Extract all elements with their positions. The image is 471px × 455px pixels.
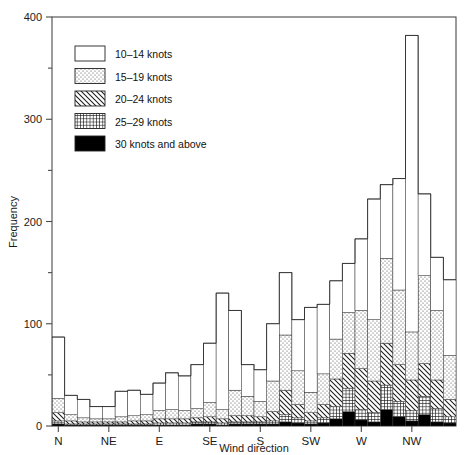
legend-swatch <box>75 114 105 129</box>
bar-segment <box>204 424 217 426</box>
bar-segment <box>178 423 191 425</box>
bar-segment <box>241 416 254 422</box>
bar-segment <box>267 412 280 421</box>
x-tick-label: NW <box>402 435 421 447</box>
bar-segment <box>90 407 103 419</box>
bar-segment <box>393 365 406 402</box>
bar-segment <box>204 417 217 422</box>
x-tick-label: N <box>54 435 62 447</box>
bar-segment <box>191 424 204 426</box>
bar-segment <box>317 405 330 418</box>
legend-label: 30 knots and above <box>115 138 207 150</box>
legend-swatch <box>75 91 105 106</box>
bar-segment <box>443 355 456 399</box>
bar-segment <box>65 421 78 424</box>
bar-segment <box>380 185 393 259</box>
bar-segment <box>103 419 116 422</box>
bar-segment <box>355 410 368 420</box>
legend-swatch <box>75 46 105 61</box>
bar-segment <box>368 320 381 381</box>
bar-segment <box>380 385 393 410</box>
bar-segment <box>77 418 90 422</box>
bar-segment <box>166 410 179 419</box>
bar-segment <box>204 422 217 424</box>
y-axis-title: Frequency <box>7 196 19 248</box>
bar-segment <box>393 401 406 416</box>
legend-label: 25–29 knots <box>115 116 172 128</box>
y-tick-label: 200 <box>24 216 42 228</box>
bar-segment <box>90 422 103 424</box>
bar-segment <box>140 421 153 424</box>
bar-segment <box>330 281 343 339</box>
bar-segment <box>380 258 393 343</box>
bar-segment <box>342 313 355 354</box>
bar-segment <box>330 419 343 426</box>
x-tick-label: SE <box>202 435 218 447</box>
bar-segment <box>317 304 330 374</box>
bar-segment <box>292 423 305 426</box>
bar-segment <box>115 417 128 422</box>
bar-segment <box>368 199 381 320</box>
bar-segment <box>103 407 116 419</box>
bar-segment <box>305 307 318 392</box>
bar-segment <box>254 417 267 422</box>
bar-segment <box>292 320 305 371</box>
bar-segment <box>241 424 254 426</box>
bar-segment <box>292 418 305 423</box>
bar-segment <box>52 421 65 424</box>
bar-segment <box>431 310 444 380</box>
bar-segment <box>393 179 406 290</box>
legend-label: 15–19 knots <box>115 71 172 83</box>
bar-segment <box>443 399 456 416</box>
bar-segment <box>355 239 368 311</box>
bar-segment <box>443 423 456 426</box>
y-tick-label: 0 <box>36 420 42 432</box>
bar-segment <box>229 390 242 416</box>
bar-segment <box>279 422 292 426</box>
bar-segment <box>254 424 267 426</box>
x-tick-label: E <box>155 435 163 447</box>
bar-segment <box>355 420 368 426</box>
bar-segment <box>279 335 292 390</box>
bar-segment <box>317 423 330 426</box>
bar-segment <box>140 415 153 421</box>
bar-segment <box>191 365 204 409</box>
bar-segment <box>191 409 204 418</box>
bar-segment <box>368 422 381 426</box>
bar-segment <box>305 392 318 412</box>
bar-segment <box>418 415 431 426</box>
bar-segment <box>77 399 90 417</box>
bar-segment <box>406 421 419 426</box>
bar-segment <box>191 418 204 422</box>
bar-segment <box>443 280 456 356</box>
x-tick-label: NE <box>101 435 117 447</box>
bar-segment <box>52 337 65 398</box>
bar-segment <box>267 381 280 412</box>
bar-segment <box>406 380 419 411</box>
bar-segment <box>153 411 166 419</box>
bar-segment <box>241 365 254 397</box>
bar-segment <box>178 419 191 423</box>
bar-segment <box>443 417 456 423</box>
bar-segment <box>380 410 393 426</box>
bar-segment <box>330 339 343 379</box>
bar-segment <box>178 411 191 419</box>
bar-segment <box>355 369 368 410</box>
y-tick-label: 300 <box>24 113 42 125</box>
bar-segment <box>393 290 406 365</box>
legend-swatch <box>75 69 105 84</box>
bar-segment <box>178 376 191 411</box>
bar-segment <box>191 422 204 424</box>
bar-segment <box>368 381 381 413</box>
legend-label: 20–24 knots <box>115 93 172 105</box>
bar-segment <box>406 332 419 380</box>
bar-segment <box>431 409 444 422</box>
bar-segment <box>65 395 78 414</box>
bar-segment <box>140 394 153 414</box>
bar-segment <box>90 419 103 422</box>
bar-segment <box>292 371 305 405</box>
bar-segment <box>204 343 217 402</box>
bar-segment <box>431 380 444 409</box>
bar-segment <box>368 413 381 422</box>
bar-segment <box>305 421 318 424</box>
